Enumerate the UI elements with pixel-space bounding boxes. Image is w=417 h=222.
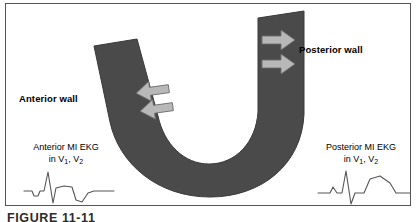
ekg-caption-anterior-lead1: 1 bbox=[64, 158, 68, 165]
ekg-caption-anterior-lead2: 2 bbox=[79, 158, 83, 165]
figure-caption: FIGURE 11-11 bbox=[7, 211, 96, 222]
ekg-caption-posterior-lead1: 1 bbox=[359, 158, 363, 165]
ekg-caption-anterior-leads-prefix: in V bbox=[49, 154, 65, 164]
ekg-caption-posterior: Posterior MI EKG in V1, V2 bbox=[311, 141, 411, 166]
ekg-caption-anterior-line1: Anterior MI EKG bbox=[33, 142, 99, 152]
label-anterior-wall: Anterior wall bbox=[19, 93, 78, 104]
ekg-caption-posterior-sep: , V bbox=[363, 154, 374, 164]
label-posterior-wall: Posterior wall bbox=[299, 44, 363, 55]
ekg-caption-posterior-leads-prefix: in V bbox=[344, 154, 360, 164]
ekg-caption-posterior-lead2: 2 bbox=[374, 158, 378, 165]
ekg-caption-anterior-sep: , V bbox=[68, 154, 79, 164]
ekg-trace-posterior bbox=[316, 167, 411, 206]
illustration-frame: Anterior wall Posterior wall Anterior MI… bbox=[5, 3, 411, 206]
figure-container: Anterior wall Posterior wall Anterior MI… bbox=[0, 0, 417, 222]
ekg-trace-anterior bbox=[22, 167, 116, 206]
ekg-caption-anterior: Anterior MI EKG in V1, V2 bbox=[18, 141, 114, 166]
ekg-caption-posterior-line1: Posterior MI EKG bbox=[326, 142, 396, 152]
